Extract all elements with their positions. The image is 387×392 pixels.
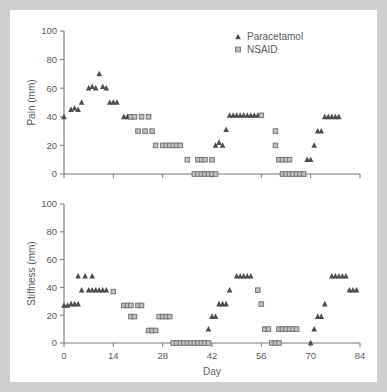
data-point-nsaid [259,302,264,307]
legend-label-nsaid: NSAID [247,44,278,55]
data-point-paracetamol [216,139,222,145]
data-point-nsaid [111,289,116,294]
data-point-paracetamol [318,128,324,134]
x-tick-label: 56 [256,350,267,361]
data-point-paracetamol [75,273,81,279]
data-point-nsaid [206,341,211,346]
y-tick-label: 100 [41,198,57,209]
data-point-paracetamol [103,287,109,293]
y-tick-label: 0 [52,168,57,179]
data-point-nsaid [287,157,292,162]
data-point-paracetamol [114,99,120,105]
y-tick-label: 80 [46,54,57,65]
y-tick-label: 100 [41,25,57,36]
data-point-paracetamol [96,71,102,77]
data-point-nsaid [139,303,144,308]
data-point-paracetamol [311,142,317,148]
data-point-nsaid [139,115,144,120]
data-point-nsaid [277,341,282,346]
pain-chart-svg: 020406080100Pain (mm)ParacetamolNSAID [10,10,377,200]
y-tick-label: 40 [46,282,57,293]
data-point-paracetamol [79,287,85,293]
data-point-paracetamol [223,126,229,132]
data-point-paracetamol [75,301,81,307]
legend-marker-paracetamol [235,34,241,40]
data-point-paracetamol [336,114,342,120]
data-point-nsaid [129,303,134,308]
stiffness-panel: 0204060801000142842567084Stiffness (mm)D… [10,195,377,382]
data-point-paracetamol [343,273,349,279]
data-point-nsaid [259,113,264,118]
data-point-nsaid [150,129,155,134]
data-point-nsaid [153,143,158,148]
data-point-nsaid [167,314,172,319]
data-point-paracetamol [213,313,219,319]
stiffness-chart-svg: 0204060801000142842567084Stiffness (mm)D… [10,195,377,382]
data-point-paracetamol [248,273,254,279]
y-tick-label: 20 [46,310,57,321]
y-tick-label: 0 [52,337,57,348]
x-tick-label: 70 [305,350,316,361]
data-point-nsaid [178,143,183,148]
data-point-nsaid [256,288,261,293]
data-point-nsaid [132,115,137,120]
data-point-paracetamol [354,287,360,293]
data-point-nsaid [266,327,271,332]
data-point-nsaid [153,328,158,333]
data-point-nsaid [143,129,148,134]
data-point-paracetamol [223,301,229,307]
y-tick-label: 60 [46,83,57,94]
data-point-nsaid [213,172,218,177]
data-point-nsaid [146,115,151,120]
y-tick-label: 80 [46,226,57,237]
x-tick-label: 42 [207,350,218,361]
pain-panel: 020406080100Pain (mm)ParacetamolNSAID [10,10,377,200]
data-point-nsaid [185,157,190,162]
y-axis-title: Pain (mm) [26,79,37,125]
y-tick-label: 40 [46,111,57,122]
data-point-nsaid [301,172,306,177]
legend-marker-nsaid [236,47,241,52]
data-point-nsaid [132,314,137,319]
data-point-paracetamol [79,99,85,105]
x-tick-label: 14 [108,350,119,361]
data-point-paracetamol [227,287,233,293]
data-point-nsaid [294,327,299,332]
x-tick-label: 84 [355,350,366,361]
x-tick-label: 28 [157,350,168,361]
x-tick-label: 0 [61,350,66,361]
y-axis-title: Stiffness (mm) [26,241,37,305]
series-nsaid [111,288,299,345]
data-point-nsaid [273,129,278,134]
x-axis-title: Day [203,366,221,377]
data-point-paracetamol [311,326,317,332]
data-point-paracetamol [318,313,324,319]
data-point-paracetamol [308,156,314,162]
legend-label-paracetamol: Paracetamol [247,31,303,42]
data-point-paracetamol [89,273,95,279]
data-point-paracetamol [206,326,212,332]
data-point-paracetamol [322,301,328,307]
y-tick-label: 20 [46,140,57,151]
figure-container: 020406080100Pain (mm)ParacetamolNSAID 02… [10,10,377,382]
data-point-paracetamol [82,273,88,279]
series-paracetamol [61,273,359,345]
data-point-nsaid [273,143,278,148]
data-point-nsaid [203,157,208,162]
data-point-nsaid [210,157,215,162]
y-tick-label: 60 [46,254,57,265]
data-point-nsaid [136,129,141,134]
